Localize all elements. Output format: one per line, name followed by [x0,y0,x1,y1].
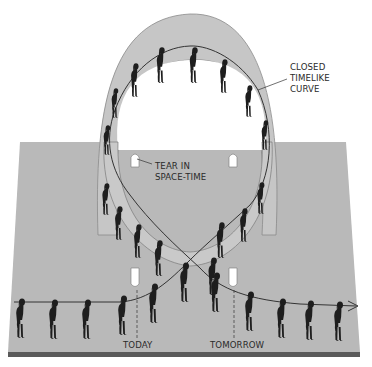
tear-right-lower [229,268,237,287]
plane-front-edge [8,352,360,357]
closed-timelike-curve-diagram [0,0,372,367]
tear-right [229,154,237,167]
label-tear-in-space-time: TEAR IN SPACE-TIME [155,161,206,183]
tear-left [131,154,139,167]
tear-left-lower [131,268,139,287]
label-today: TODAY [123,340,152,351]
diagram-canvas: CLOSED TIMELIKE CURVE TEAR IN SPACE-TIME… [0,0,372,367]
label-closed-timelike-curve: CLOSED TIMELIKE CURVE [290,62,330,95]
label-tomorrow: TOMORROW [210,340,264,351]
